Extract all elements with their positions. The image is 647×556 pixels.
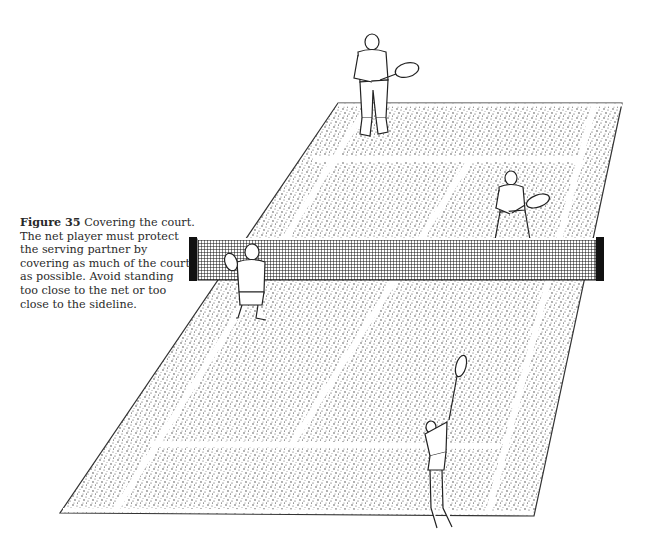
figure-label: Figure 35	[20, 215, 81, 229]
figure-caption: Figure 35 Covering the court. The net pl…	[20, 216, 195, 311]
figure-caption-text: Covering the court. The net player must …	[20, 216, 195, 311]
right-net-post	[596, 237, 604, 281]
